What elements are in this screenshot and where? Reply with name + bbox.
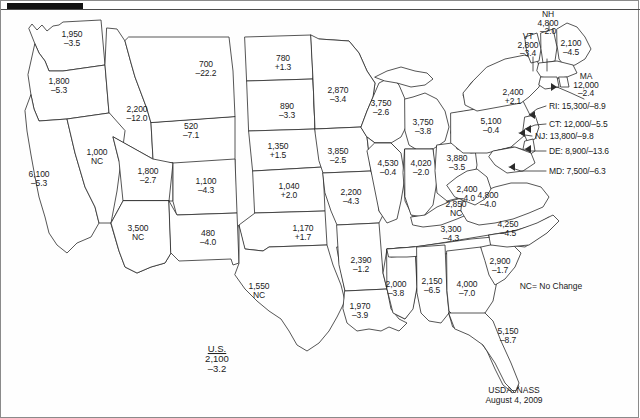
state-label-ok: 1,170+1.7 <box>293 224 314 241</box>
state-label-al: 2,150–6.5 <box>422 277 443 294</box>
state-change-ca: –5.3 <box>29 179 50 188</box>
state-change-nm: –4.0 <box>200 238 216 247</box>
callout-label-ri: RI: 15,300/–8.9 <box>549 101 606 111</box>
source-date: August 4, 2009 <box>485 396 542 406</box>
callout-label-nj: NJ: 13,800/–9.8 <box>535 131 594 141</box>
state-change-il: –0.4 <box>378 168 399 177</box>
state-change-nd: +1.3 <box>275 63 291 72</box>
callout-label-ct: CT: 12,000/–5.5 <box>549 119 608 129</box>
state-label-ms: 2,000–3.8 <box>386 280 407 297</box>
state-label-nv: 1,000NC <box>87 148 108 165</box>
state-label-vt: VT2,800–3.4 <box>518 32 539 58</box>
state-change-ma: –2.4 <box>573 89 598 98</box>
state-label-pa: 5,100–0.4 <box>481 117 502 134</box>
state-label-ne: 1,350+1.5 <box>268 142 289 159</box>
callout-label-de: DE: 8,900/–13.6 <box>549 146 609 156</box>
state-label-mt: 700–22.2 <box>196 60 217 77</box>
state-change-wv: –4.0 <box>457 194 478 203</box>
state-label-la: 1,970–3.9 <box>350 302 371 319</box>
state-change-wa: –3.5 <box>62 39 83 48</box>
us-total-change: –3.2 <box>205 364 229 374</box>
state-change-ga: –7.0 <box>457 289 478 298</box>
state-label-sd: 890–3.3 <box>279 102 295 119</box>
state-change-nc: –4.5 <box>498 229 519 238</box>
legend-no-change-note: NC= No Change <box>520 281 583 291</box>
state-change-vt: –3.4 <box>518 49 539 58</box>
state-label-mn: 2,870–3.4 <box>328 86 349 103</box>
source-credit: USDA–NASS August 4, 2009 <box>485 386 542 406</box>
state-label-nh: NH4,800–2.0 <box>538 10 559 36</box>
state-label-ga: 4,000–7.0 <box>457 280 478 297</box>
state-label-oh: 3,880–3.5 <box>447 154 468 171</box>
state-change-id: –12.0 <box>127 114 148 123</box>
state-label-me: 2,100–4.5 <box>561 39 582 56</box>
callout-label-md: MD: 7,500/–6.3 <box>549 166 606 176</box>
state-label-ar: 2,390–1.2 <box>351 256 372 273</box>
state-label-nd: 780+1.3 <box>275 54 291 71</box>
state-change-or: –5.3 <box>49 86 70 95</box>
state-label-id: 2,200–12.0 <box>127 105 148 122</box>
state-change-va: –4.0 <box>478 200 499 209</box>
state-change-nv: NC <box>87 157 108 166</box>
state-label-sc: 2,900–1.7 <box>490 257 511 274</box>
state-label-tx: 1,550NC <box>249 282 270 299</box>
state-change-me: –4.5 <box>561 48 582 57</box>
state-label-ca: 6,100–5.3 <box>29 170 50 187</box>
state-change-mi: –3.8 <box>413 127 434 136</box>
state-change-ia: –2.5 <box>328 156 349 165</box>
state-change-ms: –3.8 <box>386 289 407 298</box>
state-label-ut: 1,800–2.7 <box>138 167 159 184</box>
state-label-or: 1,800–5.3 <box>49 77 70 94</box>
us-total-block: U.S. 2,100 –3.2 <box>205 344 229 374</box>
state-change-ut: –2.7 <box>138 176 159 185</box>
state-label-wa: 1,950–3.5 <box>62 30 83 47</box>
state-change-mt: –22.2 <box>196 69 217 78</box>
state-change-wi: –2.6 <box>371 108 392 117</box>
state-change-oh: –3.5 <box>447 163 468 172</box>
state-label-va: 4,800–4.0 <box>478 191 499 208</box>
state-change-al: –6.5 <box>422 286 443 295</box>
state-change-nh: –2.0 <box>538 27 559 36</box>
state-change-ny: +2.1 <box>503 97 524 106</box>
state-label-ia: 3,850–2.5 <box>328 147 349 164</box>
state-change-fl: –8.7 <box>498 336 519 345</box>
state-change-tx: NC <box>249 291 270 300</box>
state-change-pa: –0.4 <box>481 126 502 135</box>
state-change-az: NC <box>128 233 149 242</box>
state-change-in: –2.0 <box>411 168 432 177</box>
us-states-outline-map <box>1 1 640 418</box>
state-change-sc: –1.7 <box>490 266 511 275</box>
state-change-ne: +1.5 <box>268 151 289 160</box>
state-label-wv: 2,400–4.0 <box>457 185 478 202</box>
state-label-tn: 3,300–4.3 <box>441 225 462 242</box>
state-label-in: 4,020–2.0 <box>411 159 432 176</box>
state-label-ks: 1,040+2.0 <box>279 182 300 199</box>
state-label-ny: 2,400+2.1 <box>503 88 524 105</box>
state-change-ks: +2.0 <box>279 191 300 200</box>
state-label-mi: 3,750–3.8 <box>413 118 434 135</box>
state-label-wy: 520–7.1 <box>183 122 199 139</box>
state-change-wy: –7.1 <box>183 131 199 140</box>
state-change-mn: –3.4 <box>328 95 349 104</box>
state-label-nc: 4,250–4.5 <box>498 220 519 237</box>
state-label-mo: 2,200–4.3 <box>341 188 362 205</box>
state-change-tn: –4.3 <box>441 234 462 243</box>
state-label-ma: MA12,000–2.4 <box>573 72 598 98</box>
state-change-la: –3.9 <box>350 311 371 320</box>
state-label-nm: 480–4.0 <box>200 229 216 246</box>
state-change-sd: –3.3 <box>279 111 295 120</box>
state-label-wi: 3,750–2.6 <box>371 99 392 116</box>
state-change-ar: –1.2 <box>351 265 372 274</box>
state-change-mo: –4.3 <box>341 197 362 206</box>
state-label-fl: 5,150–8.7 <box>498 327 519 344</box>
state-change-ok: +1.7 <box>293 233 314 242</box>
state-label-il: 4,530–0.4 <box>378 159 399 176</box>
state-label-co: 1,100–4.3 <box>196 177 217 194</box>
state-change-co: –4.3 <box>196 186 217 195</box>
state-change-ky: NC <box>446 209 467 218</box>
state-label-az: 3,500NC <box>128 224 149 241</box>
